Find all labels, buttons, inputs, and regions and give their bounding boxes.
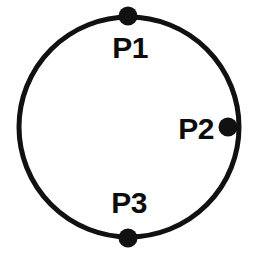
point-label-p1: P1 <box>112 31 148 64</box>
point-marker-p2[interactable] <box>219 118 238 137</box>
point-marker-p3[interactable] <box>119 229 138 248</box>
circle-diagram-svg: P1 P2 P3 <box>0 0 253 258</box>
circle-diagram-canvas: P1 P2 P3 <box>0 0 253 258</box>
point-label-p3: P3 <box>111 186 147 219</box>
point-marker-p1[interactable] <box>119 7 138 26</box>
point-label-p2: P2 <box>178 112 214 145</box>
